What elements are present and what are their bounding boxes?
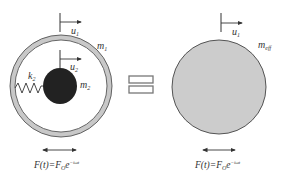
label-meff: meff	[258, 39, 273, 51]
force-equation-right: F(t)=FOe−iωt	[194, 160, 241, 171]
label-u2: u2	[70, 61, 78, 73]
label-m2: m2	[80, 79, 90, 91]
effective-mass	[172, 40, 266, 134]
left-system: u1 m1 u2 m2 k2 F(t)=FOe−iωt	[10, 13, 112, 171]
label-u1: u1	[71, 25, 79, 37]
force-equation-left: F(t)=FOe−iωt	[33, 160, 80, 171]
label-u1-effective: u1	[232, 26, 240, 38]
right-system: u1 meff F(t)=FOe−iωt	[172, 13, 273, 171]
inner-mass	[43, 68, 77, 104]
metamaterial-equivalence-diagram: u1 m1 u2 m2 k2 F(t)=FOe−iωt u1 meff F(t)…	[0, 0, 282, 179]
label-k2: k2	[28, 70, 35, 82]
spring-icon	[15, 83, 43, 93]
equivalence-icon	[129, 76, 153, 93]
label-m1: m1	[97, 40, 107, 52]
